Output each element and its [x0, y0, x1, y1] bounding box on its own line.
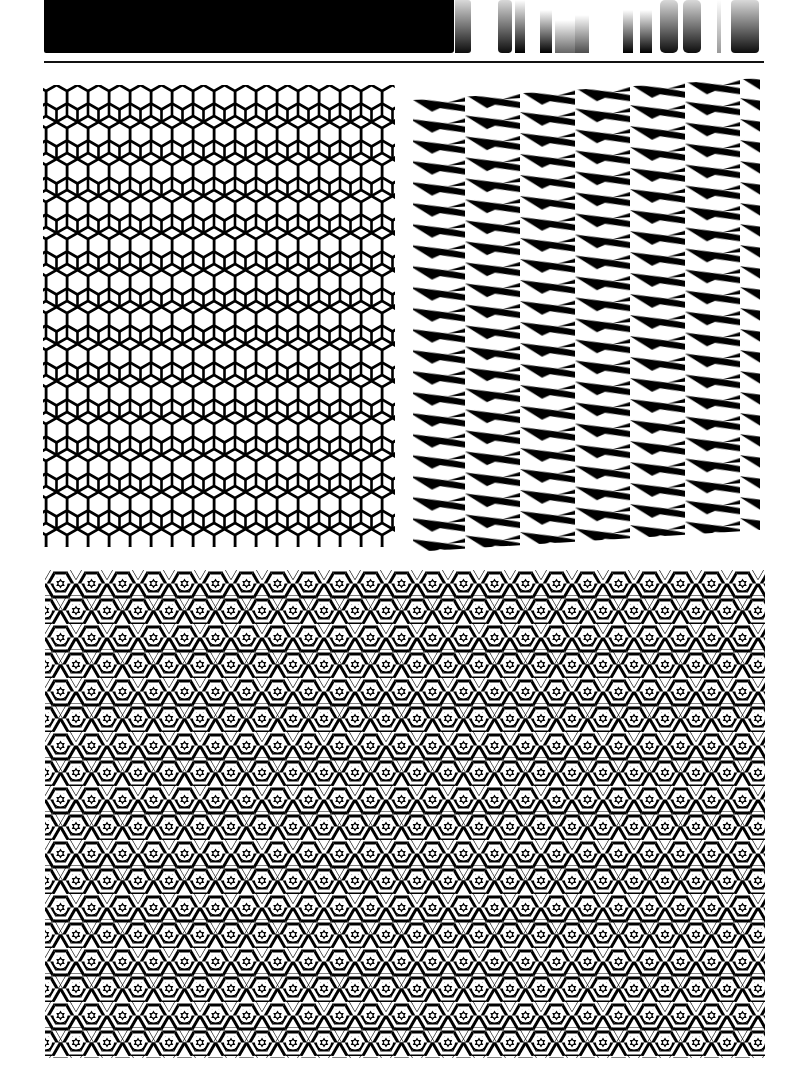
hexagon-grid-panel — [43, 82, 395, 550]
striped-hex-star-panel — [45, 570, 765, 1058]
header-divider — [44, 61, 764, 63]
zigzag-wedge-panel — [410, 74, 765, 554]
header-edge-fade — [0, 0, 44, 53]
header-smeared-title — [455, 0, 775, 53]
header-black-bar — [44, 0, 454, 53]
